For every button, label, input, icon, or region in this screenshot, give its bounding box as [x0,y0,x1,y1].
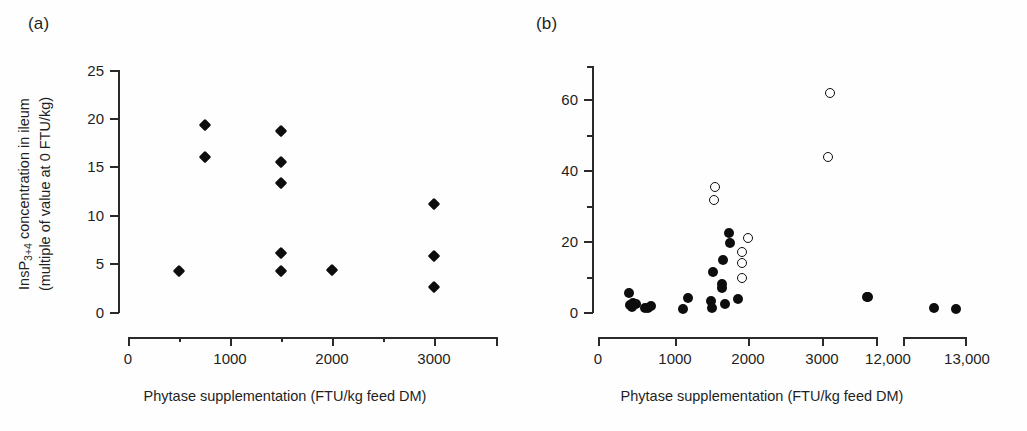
panel-b-xtick-label-13000: 13,000 [921,350,1013,367]
panel-b-xtick-label-1000: 1000 [640,350,710,367]
panel-b-label: (b) [536,14,557,34]
data-point-open-1 [709,195,719,205]
panel-b-x-axis-spine-right [903,337,967,339]
panel-a-xtick-2500 [383,337,385,342]
panel-b: (b) 0 20 40 60 0 1000 2000 3000 12,000 1 [512,0,1027,431]
data-point-filled-11 [707,303,717,313]
panel-a-ytick-10 [110,215,119,217]
panel-b-xtick-label-2000: 2000 [713,350,783,367]
panel-b-xtick-1000 [675,337,677,346]
data-point-open-7 [823,152,833,162]
data-point-open-5 [743,233,753,243]
data-point-diamond-5 [275,177,288,190]
y-axis-subscript: 3+4 [22,243,34,261]
panel-b-ytick-label-60: 60 [532,91,578,108]
panel-a-xtick-500 [179,337,181,342]
figure-container: (a) InsP3+4 concentration in ileum (mult… [0,0,1027,431]
panel-b-ytick-label-0: 0 [532,304,578,321]
panel-b-x-axis-break-cap-left [876,337,878,346]
data-point-filled-12 [708,267,718,277]
panel-b-ytick-60 [584,99,593,101]
panel-b-xtick-label-0: 0 [568,350,628,367]
panel-b-ytick-70 [587,66,593,68]
data-point-filled-16 [720,299,730,309]
data-point-filled-19 [733,294,743,304]
data-point-filled-14 [717,283,727,293]
data-point-open-2 [737,247,747,257]
panel-b-ytick-20 [584,241,593,243]
panel-a-x-axis-spine [128,337,498,339]
panel-a-x-axis-title: Phytase supplementation (FTU/kg feed DM) [60,388,510,404]
data-point-diamond-1 [198,119,211,132]
panel-a-xtick-label-1000: 1000 [195,350,265,367]
panel-a-xtick-2000 [332,337,334,346]
data-point-filled-18 [725,238,735,248]
panel-a-label: (a) [28,14,49,34]
panel-a-ytick-25 [110,70,119,72]
panel-a-xtick-label-2000: 2000 [297,350,367,367]
panel-b-x-axis-spine-left [598,337,878,339]
panel-b-x-axis-right-cap [965,337,967,346]
panel-a-xtick-3000 [434,337,436,346]
panel-a-ytick-20 [110,118,119,120]
panel-a-ytick-15 [110,166,119,168]
panel-a-ytick-label-0: 0 [62,304,104,321]
panel-b-y-axis-spine [592,66,594,313]
data-point-filled-23 [951,304,961,314]
data-point-open-6 [825,88,835,98]
panel-b-x-axis-left-cap [598,337,600,346]
data-point-filled-21 [863,292,873,302]
panel-a-x-axis-left-cap [128,337,130,346]
panel-a-y-axis-spine [118,70,120,313]
data-point-filled-8 [678,304,688,314]
data-point-diamond-9 [428,197,441,210]
data-point-open-3 [737,258,747,268]
panel-b-xtick-3000 [822,337,824,346]
panel-b-x-axis-break-cap-right [903,337,905,346]
data-point-filled-22 [929,303,939,313]
data-point-diamond-0 [173,265,186,278]
data-point-filled-7 [646,301,656,311]
panel-a-xtick-1000 [230,337,232,346]
panel-a-xtick-label-3000: 3000 [399,350,469,367]
data-point-filled-17 [724,228,734,238]
panel-b-ytick-40 [584,170,593,172]
panel-a-xtick-1500 [281,337,283,342]
panel-a-ytick-0 [110,312,119,314]
panel-b-ytick-10 [587,277,593,279]
panel-a-ytick-label-10: 10 [62,207,104,224]
data-point-open-0 [710,182,720,192]
panel-b-ytick-0 [584,312,593,314]
panel-b-ytick-50 [587,135,593,137]
panel-a-ytick-label-5: 5 [62,255,104,272]
panel-a: (a) InsP3+4 concentration in ileum (mult… [0,0,515,431]
data-point-open-4 [737,273,747,283]
panel-b-xtick-2000 [748,337,750,346]
panel-a-ytick-label-15: 15 [62,158,104,175]
data-point-diamond-10 [428,249,441,262]
panel-a-ytick-5 [110,263,119,265]
panel-b-x-axis-title: Phytase supplementation (FTU/kg feed DM) [532,388,992,404]
panel-b-ytick-30 [587,206,593,208]
data-point-diamond-8 [326,264,339,277]
panel-a-ytick-label-25: 25 [62,62,104,79]
data-point-diamond-2 [198,151,211,164]
panel-a-y-axis-title: InsP3+4 concentration in ileum (multiple… [16,58,54,330]
data-point-diamond-11 [428,280,441,293]
panel-a-x-axis-right-cap [496,337,498,346]
panel-b-ytick-label-40: 40 [532,162,578,179]
panel-a-ytick-label-20: 20 [62,110,104,127]
data-point-filled-15 [718,255,728,265]
data-point-diamond-7 [275,265,288,278]
data-point-filled-0 [624,288,634,298]
panel-b-ytick-label-20: 20 [532,233,578,250]
data-point-diamond-3 [275,125,288,138]
data-point-filled-9 [683,293,693,303]
data-point-diamond-6 [275,247,288,260]
data-point-diamond-4 [275,156,288,169]
panel-a-xtick-label-0: 0 [98,350,158,367]
